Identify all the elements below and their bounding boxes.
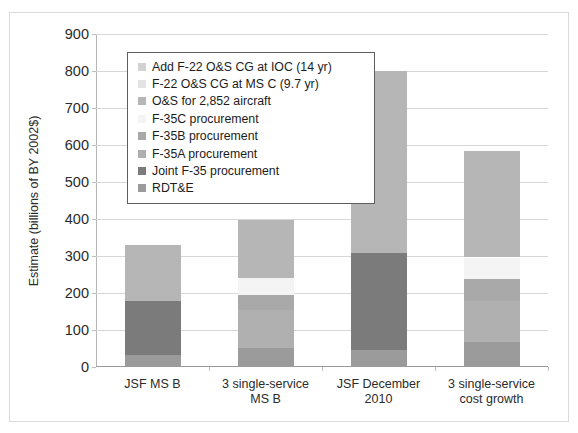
y-tick-mark [92, 330, 96, 331]
chart-legend: Add F-22 O&S CG at IOC (14 yr)F-22 O&S C… [127, 52, 375, 204]
x-axis-label-line: JSF MS B [94, 377, 212, 392]
legend-item[interactable]: RDT&E [138, 180, 366, 197]
y-tick-label: 0 [81, 359, 89, 375]
x-axis-label-line: JSF December [320, 377, 438, 392]
legend-item[interactable]: F-35C procurement [138, 110, 366, 127]
legend-swatch-icon [138, 63, 146, 71]
legend-swatch-icon [138, 150, 146, 158]
y-tick-label: 500 [65, 174, 89, 190]
legend-swatch-icon [138, 115, 146, 123]
legend-swatch-icon [138, 97, 146, 105]
chart-figure: Estimate (billions of BY 2002$) 01002003… [9, 12, 569, 422]
cutoff-header-text [0, 0, 578, 10]
legend-item[interactable]: F-35B procurement [138, 128, 366, 145]
legend-swatch-icon [138, 167, 146, 175]
y-tick-label: 100 [65, 322, 89, 338]
y-tick-label: 600 [65, 137, 89, 153]
bar-segment[interactable] [238, 310, 294, 348]
y-tick-mark [92, 367, 96, 368]
legend-label: F-35A procurement [152, 147, 257, 161]
legend-item[interactable]: Add F-22 O&S CG at IOC (14 yr) [138, 58, 366, 75]
y-axis-line [96, 34, 97, 367]
bar-segment[interactable] [464, 301, 520, 342]
y-tick-label: 900 [65, 26, 89, 42]
y-tick-mark [92, 71, 96, 72]
y-axis-title-text: Estimate (billions of BY 2002$) [27, 115, 41, 286]
bar-segment[interactable] [125, 245, 181, 301]
y-tick-label: 700 [65, 100, 89, 116]
x-axis-label-line: 2010 [320, 392, 438, 407]
bar-segment[interactable] [238, 278, 294, 295]
y-tick-mark [92, 293, 96, 294]
bar-segment[interactable] [238, 220, 294, 278]
y-tick-mark [92, 256, 96, 257]
x-axis-category-label: JSF MS B [94, 377, 212, 392]
legend-label: O&S for 2,852 aircraft [152, 94, 271, 108]
y-tick-mark [92, 145, 96, 146]
legend-label: F-35C procurement [152, 112, 259, 126]
gridline [96, 34, 548, 35]
y-tick-label: 400 [65, 211, 89, 227]
x-axis-category-label: 3 single-servicecost growth [433, 377, 551, 407]
bar-segment[interactable] [464, 258, 520, 279]
y-tick-label: 300 [65, 248, 89, 264]
x-axis-labels: JSF MS B3 single-serviceMS BJSF December… [96, 371, 548, 417]
y-tick-mark [92, 108, 96, 109]
legend-label: RDT&E [152, 181, 194, 195]
legend-label: Joint F-35 procurement [152, 164, 279, 178]
x-axis-category-label: 3 single-serviceMS B [207, 377, 325, 407]
legend-item[interactable]: F-22 O&S CG at MS C (9.7 yr) [138, 75, 366, 92]
x-axis-label-line: 3 single-service [433, 377, 551, 392]
legend-swatch-icon [138, 80, 146, 88]
x-axis-label-line: cost growth [433, 392, 551, 407]
legend-item[interactable]: O&S for 2,852 aircraft [138, 93, 366, 110]
bar-segment[interactable] [238, 295, 294, 310]
bar-segment[interactable] [351, 253, 407, 349]
x-tick-mark [548, 367, 549, 371]
y-tick-mark [92, 182, 96, 183]
legend-label: F-22 O&S CG at MS C (9.7 yr) [152, 77, 319, 91]
x-axis-category-label: JSF December2010 [320, 377, 438, 407]
legend-swatch-icon [138, 184, 146, 192]
legend-label: Add F-22 O&S CG at IOC (14 yr) [152, 60, 332, 74]
bar-segment[interactable] [351, 350, 407, 367]
legend-item[interactable]: F-35A procurement [138, 145, 366, 162]
y-tick-mark [92, 219, 96, 220]
y-tick-mark [92, 34, 96, 35]
y-tick-label: 800 [65, 63, 89, 79]
bar-segment[interactable] [464, 342, 520, 367]
bar-segment[interactable] [238, 348, 294, 367]
legend-label: F-35B procurement [152, 129, 258, 143]
x-axis-label-line: MS B [207, 392, 325, 407]
bar-segment[interactable] [125, 355, 181, 367]
bar-segment[interactable] [464, 151, 520, 257]
y-axis-title: Estimate (billions of BY 2002$) [24, 34, 44, 367]
bar-segment[interactable] [464, 279, 520, 301]
x-axis-label-line: 3 single-service [207, 377, 325, 392]
bar-segment[interactable] [125, 301, 181, 355]
y-tick-label: 200 [65, 285, 89, 301]
legend-swatch-icon [138, 132, 146, 140]
legend-item[interactable]: Joint F-35 procurement [138, 162, 366, 179]
